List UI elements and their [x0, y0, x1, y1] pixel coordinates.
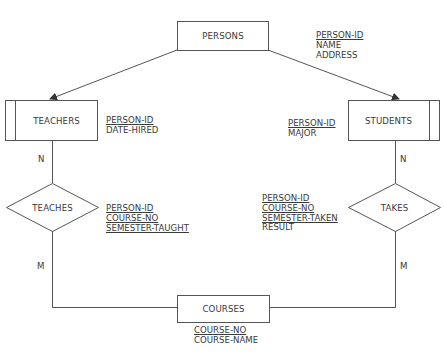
teaches-attributes: PERSON-ID COURSE-NO SEMESTER-TAUGHT [106, 204, 189, 233]
attribute: ADDRESS [316, 51, 363, 61]
courses-label: COURSES [177, 304, 270, 314]
persons-attributes: PERSON-ID NAME ADDRESS [316, 31, 363, 60]
teaches-courses-connector [53, 231, 178, 308]
attribute: RESULT [262, 223, 338, 233]
takes-attributes: PERSON-ID COURSE-NO SEMESTER-TAKEN RESUL… [262, 194, 338, 233]
teachers-label: TEACHERS [15, 116, 98, 126]
er-diagram-canvas [0, 0, 444, 353]
attribute-key: SEMESTER-TAUGHT [106, 224, 189, 234]
cardinality-teaches-courses: M [37, 261, 44, 271]
takes-courses-connector [269, 231, 396, 308]
persons-to-teachers-arrow [50, 50, 177, 99]
takes-label: TAKES [348, 203, 441, 213]
attribute: COURSE-NAME [194, 336, 258, 346]
courses-attributes: COURSE-NO COURSE-NAME [194, 326, 258, 346]
cardinality-takes-courses: M [400, 261, 407, 271]
students-label: STUDENTS [348, 116, 429, 126]
attribute: DATE-HIRED [106, 126, 158, 136]
students-attributes: PERSON-ID MAJOR [288, 119, 335, 139]
teaches-label: TEACHES [6, 203, 99, 213]
cardinality-students-takes: N [400, 154, 406, 164]
cardinality-teachers-teaches: N [38, 154, 44, 164]
teachers-attributes: PERSON-ID DATE-HIRED [106, 116, 158, 136]
attribute: MAJOR [288, 129, 335, 139]
persons-label: PERSONS [177, 31, 269, 41]
